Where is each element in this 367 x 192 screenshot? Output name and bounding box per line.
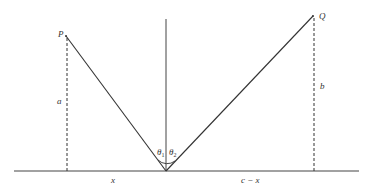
label-theta-1: θ1	[157, 147, 164, 158]
label-a: a	[57, 96, 62, 106]
label-theta-2: θ2	[169, 147, 176, 158]
reflected-ray	[166, 16, 313, 171]
point-q-marker	[312, 15, 314, 17]
reflection-diagram: P Q a b x c − x θ1 θ2	[0, 0, 367, 192]
label-q: Q	[319, 11, 326, 21]
point-p-marker	[65, 35, 67, 37]
label-p: P	[57, 29, 64, 39]
incident-ray	[66, 36, 166, 171]
label-x: x	[110, 175, 115, 185]
label-b: b	[320, 81, 325, 91]
label-c-minus-x: c − x	[241, 175, 260, 185]
